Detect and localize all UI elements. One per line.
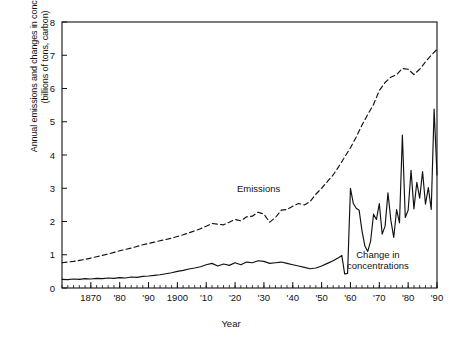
y-tick-label: 4	[50, 150, 55, 161]
x-tick-label: '70	[373, 292, 385, 303]
y-tick-label: 5	[50, 116, 55, 127]
x-tick-label: '50	[315, 292, 327, 303]
y-tick-label: 3	[50, 183, 55, 194]
annotation-emissions: Emissions	[237, 183, 280, 194]
y-tick-label: 1	[50, 249, 55, 260]
x-tick-label: '60	[344, 292, 356, 303]
y-tick-label: 8	[50, 17, 55, 28]
annotation-change-in-concentrations: Change in concentrations	[347, 249, 409, 271]
y-tick-label: 6	[50, 83, 55, 94]
plot-area: 0123456781870'80'901900'10'20'30'40'50'6…	[0, 0, 462, 344]
x-tick-label: '40	[287, 292, 299, 303]
x-axis-title: Year	[0, 318, 462, 329]
series-emissions	[62, 49, 437, 262]
annotation-change-line1: Change in	[347, 249, 409, 260]
x-tick-label: 1900	[167, 292, 188, 303]
annotation-change-line2: concentrations	[347, 260, 409, 271]
x-tick-label: '30	[258, 292, 270, 303]
x-tick-label: '90	[142, 292, 154, 303]
chart-figure: Annual emissions and changes in concentr…	[0, 0, 462, 344]
y-tick-label: 0	[50, 283, 55, 294]
x-tick-label: 1870	[80, 292, 101, 303]
y-tick-label: 7	[50, 50, 55, 61]
x-tick-label: '10	[200, 292, 212, 303]
x-tick-label: '80	[402, 292, 414, 303]
y-tick-label: 2	[50, 216, 55, 227]
x-tick-label: '90	[431, 292, 443, 303]
x-tick-label: '80	[113, 292, 125, 303]
x-tick-label: '20	[229, 292, 241, 303]
